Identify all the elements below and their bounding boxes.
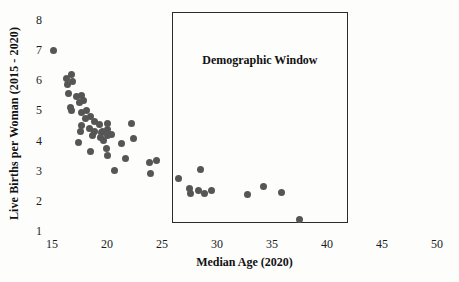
y-tick-label: 8 [24,13,42,27]
data-point [118,140,125,147]
y-tick-label: 1 [24,224,42,238]
x-tick-label: 15 [40,237,64,251]
data-point [104,152,111,159]
data-point [296,216,303,223]
x-tick-label: 25 [150,237,174,251]
data-point [76,99,83,106]
data-point [89,132,96,139]
data-point [175,175,182,182]
y-tick-label: 3 [24,164,42,178]
data-point [260,183,267,190]
y-tick-label: 5 [24,103,42,117]
data-point [147,170,154,177]
data-point [153,157,160,164]
data-point [65,90,72,97]
y-tick-label: 6 [24,73,42,87]
data-point [50,47,57,54]
data-point [122,155,129,162]
x-tick-label: 20 [95,237,119,251]
y-tick-label: 4 [24,134,42,148]
data-point [187,190,194,197]
data-point [75,139,82,146]
data-point [87,148,94,155]
y-axis-title: Live Births per Woman (2015 - 2020) [7,4,22,244]
data-point [197,166,204,173]
data-point [77,128,84,135]
x-tick-label: 40 [315,237,339,251]
y-tick-label: 2 [24,194,42,208]
x-tick-label: 45 [370,237,394,251]
x-tick-label: 35 [260,237,284,251]
data-point [208,187,215,194]
data-point [100,137,107,144]
data-point [64,81,71,88]
data-point [146,159,153,166]
y-tick-label: 7 [24,43,42,57]
x-axis-title: Median Age (2020) [52,255,437,270]
demographic-window-label: Demographic Window [172,53,348,68]
x-tick-label: 30 [205,237,229,251]
data-point [96,121,103,128]
data-point [128,120,135,127]
data-point [103,145,110,152]
x-tick-label: 50 [425,237,449,251]
data-point [68,107,75,114]
data-point [130,135,137,142]
data-point [111,167,118,174]
scatter-chart: Live Births per Woman (2015 - 2020) Medi… [0,0,459,282]
